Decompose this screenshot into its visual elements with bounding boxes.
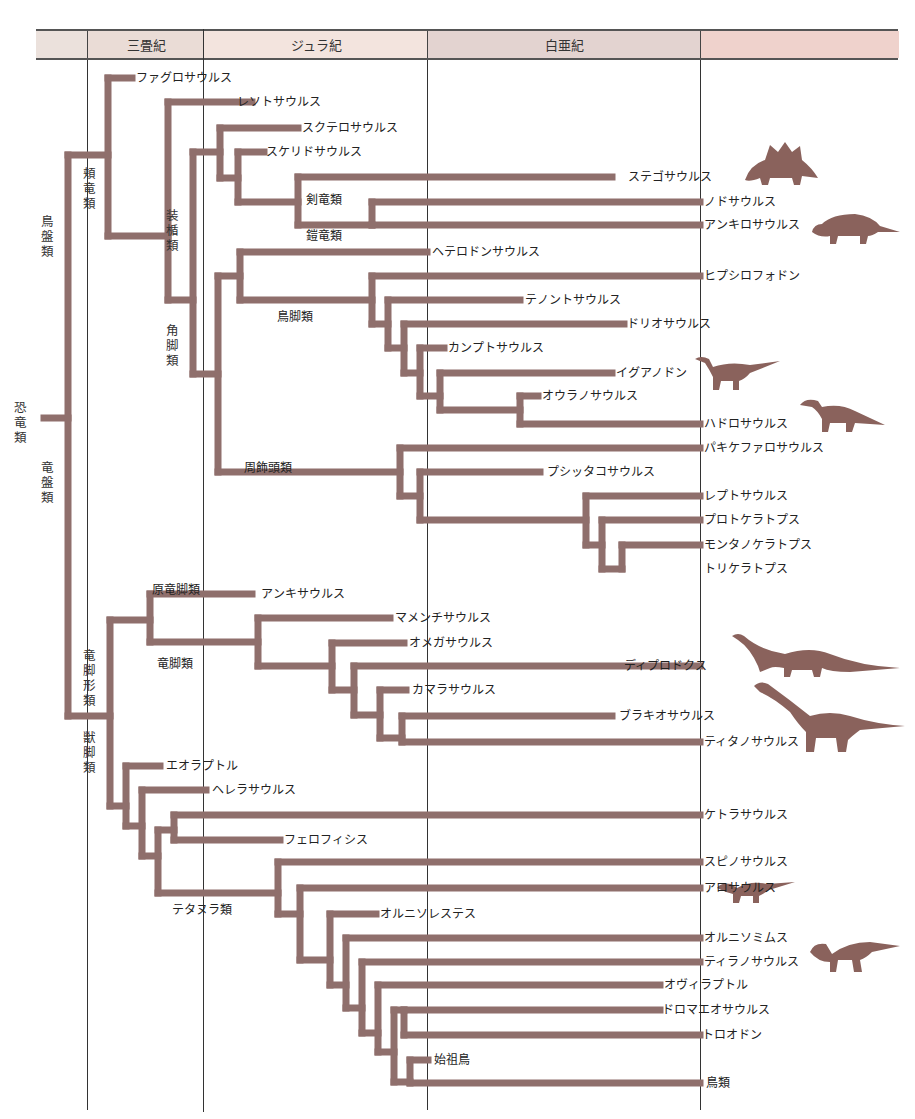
branch-segment	[275, 859, 282, 918]
cladogram-branches	[0, 0, 915, 1119]
taxon-label: プロトケラトプス	[704, 513, 800, 527]
branch-segment	[401, 321, 408, 377]
taxon-label: ティタノサウルス	[704, 735, 799, 749]
branch-segment	[401, 1007, 664, 1014]
branch-segment	[295, 222, 376, 229]
branch-segment	[583, 493, 704, 500]
branch-segment	[619, 542, 704, 549]
branch-segment	[255, 663, 336, 670]
taxon-label: プシッタコサウルス	[547, 465, 655, 479]
branch-segment	[343, 935, 704, 942]
branch-segment	[327, 911, 334, 989]
branch-segment	[147, 639, 262, 646]
branch-segment	[359, 959, 366, 1037]
taxon-label: ノドサウルス	[704, 195, 776, 209]
taxon-label: ティラノサウルス	[704, 955, 799, 969]
taxon-label: ディプロドクス	[624, 659, 707, 673]
clade-label: 原竜脚類	[152, 583, 200, 597]
branch-segment	[65, 713, 114, 720]
branch-segment	[417, 345, 448, 352]
branch-segment	[399, 739, 704, 746]
taxon-label: アロサウルス	[704, 881, 776, 895]
branch-segment	[139, 787, 146, 860]
branch-segment	[385, 297, 524, 304]
taxon-label: カマラサウルス	[412, 683, 496, 697]
branch-segment	[215, 469, 404, 476]
branch-segment	[155, 890, 282, 897]
branch-segment	[297, 885, 704, 892]
branch-segment	[369, 199, 704, 206]
tyrannosaur-icon	[810, 942, 900, 972]
taxon-label: スケリドサウルス	[266, 145, 362, 159]
branch-segment	[369, 273, 704, 280]
branch-segment	[417, 469, 424, 524]
taxon-label: オルニソレステス	[380, 907, 476, 921]
clade-label-vertical: 装楯類	[165, 208, 179, 253]
clade-label: 鎧竜類	[306, 229, 342, 243]
branch-segment	[171, 812, 704, 819]
dinosaur-cladogram: 三畳紀ジュラ紀白亜紀 ファグロサウルスレソトサウルススクテロサウルススケリドサウ…	[0, 0, 915, 1119]
branch-segment	[237, 297, 376, 304]
branch-segment	[297, 885, 304, 964]
clade-label-vertical: 恐竜類	[13, 400, 27, 445]
taxon-label: トリケラトプス	[704, 562, 788, 576]
branch-segment	[517, 393, 542, 400]
branch-segment	[123, 763, 130, 830]
diplodocus-icon	[732, 634, 900, 677]
taxon-label: ヒプシロフォドン	[704, 269, 800, 283]
branch-segment	[123, 763, 164, 770]
branch-segment	[397, 445, 404, 500]
iguanodon-icon	[695, 357, 780, 390]
taxon-label: エオラプトル	[166, 759, 238, 773]
taxon-label: ハドロサウルス	[704, 417, 788, 431]
branch-segment	[329, 640, 408, 647]
clade-label: 鳥脚類	[277, 310, 313, 324]
branch-segment	[385, 297, 392, 352]
branch-segment	[437, 407, 524, 414]
taxon-label: オウラノサウルス	[542, 389, 638, 403]
branch-segment	[190, 149, 197, 378]
branch-segment	[369, 222, 704, 229]
branch-segment	[437, 370, 616, 377]
taxon-label: オメガサウルス	[409, 636, 493, 650]
taxon-label: イグアノドン	[616, 366, 687, 380]
branch-segment	[375, 982, 382, 1056]
taxon-label: 始祖鳥	[434, 1053, 470, 1067]
branch-segment	[399, 713, 616, 720]
taxon-label: フェロフィシス	[284, 833, 368, 847]
branch-segment	[401, 321, 628, 328]
branch-segment	[417, 469, 544, 476]
taxon-label: ドロマエオサウルス	[662, 1003, 770, 1017]
clade-label: 周飾頭類	[244, 461, 292, 475]
taxon-label: アンキロサウルス	[704, 218, 800, 232]
branch-segment	[377, 687, 410, 694]
branch-segment	[375, 982, 664, 989]
branch-segment	[107, 617, 114, 810]
branch-segment	[407, 1057, 432, 1064]
clade-label-vertical: 頬竜類	[82, 166, 96, 211]
branch-segment	[147, 591, 154, 646]
branch-segment	[105, 233, 172, 240]
branch-segment	[107, 617, 154, 624]
stegosaur-icon	[745, 142, 818, 185]
clade-label: テタヌラ類	[172, 903, 232, 917]
branch-segment	[237, 249, 244, 304]
taxon-label: スクテロサウルス	[302, 121, 398, 135]
taxon-label: マメンチサウルス	[395, 611, 491, 625]
branch-segment	[237, 249, 431, 256]
taxon-label: レプトサウルス	[704, 489, 788, 503]
branch-segment	[417, 345, 424, 400]
taxon-label: モンタノケラトプス	[704, 538, 812, 552]
taxon-label: ファグロサウルス	[136, 71, 232, 85]
branch-segment	[217, 125, 302, 132]
branch-segment	[417, 517, 590, 524]
taxon-label: レソトサウルス	[237, 95, 321, 109]
branch-segment	[343, 935, 350, 1012]
taxon-label: ヘテロドンサウルス	[432, 245, 540, 259]
branch-segment	[327, 911, 380, 918]
taxon-label: ステゴサウルス	[628, 170, 712, 184]
branch-segment	[235, 199, 302, 206]
taxon-label: パキケファロサウルス	[704, 441, 824, 455]
branch-segment	[235, 149, 242, 206]
branch-segment	[171, 837, 284, 844]
